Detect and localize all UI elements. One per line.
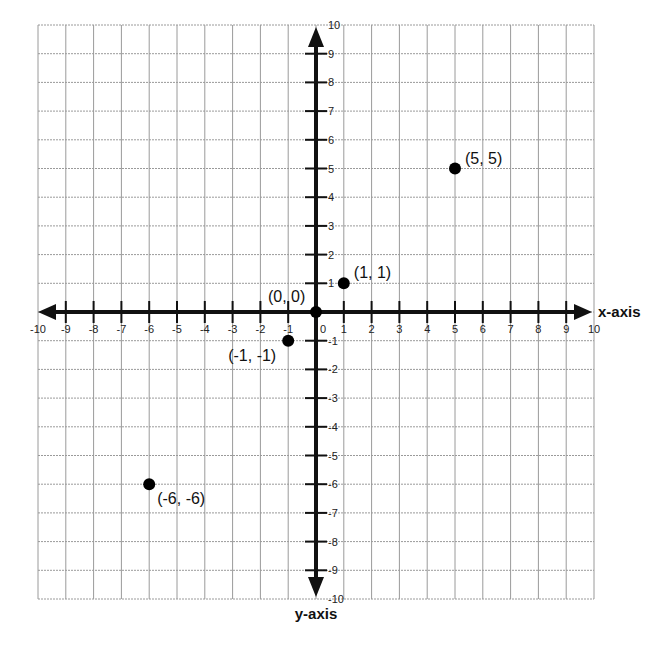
x-axis-title: x-axis	[598, 303, 641, 320]
point-label: (-6, -6)	[157, 490, 205, 507]
x-tick-label: -10	[30, 323, 46, 335]
x-tick-label: 2	[369, 323, 375, 335]
y-tick-label: -1	[328, 335, 338, 347]
y-tick-label: -3	[328, 392, 338, 404]
x-tick-label: -5	[172, 323, 182, 335]
y-tick-label: -7	[328, 507, 338, 519]
x-tick-label: 4	[424, 323, 430, 335]
x-tick-label: 3	[396, 323, 402, 335]
point-marker	[449, 163, 461, 175]
y-tick-label: 5	[328, 163, 334, 175]
x-tick-label: -4	[200, 323, 210, 335]
x-axis-left-arrow-icon	[38, 304, 56, 320]
x-tick-label: 0	[320, 323, 326, 335]
y-tick-label: -5	[328, 450, 338, 462]
y-tick-label: 8	[328, 76, 334, 88]
x-tick-label: 10	[588, 323, 600, 335]
y-axis-title: y-axis	[295, 605, 338, 622]
point-label: (-1, -1)	[228, 347, 276, 364]
coordinate-plane: -10-9-8-7-6-5-4-3-2-1012345678910-10-9-8…	[0, 0, 670, 654]
x-tick-label: 8	[535, 323, 541, 335]
x-tick-label: -7	[117, 323, 127, 335]
y-tick-label: -6	[328, 478, 338, 490]
y-tick-label: 9	[328, 48, 334, 60]
x-tick-label: 9	[563, 323, 569, 335]
data-point: (-6, -6)	[143, 478, 205, 507]
y-tick-label: 7	[328, 105, 334, 117]
y-tick-label: 3	[328, 220, 334, 232]
y-axis-up-arrow-icon	[308, 27, 324, 47]
y-axis-down-arrow-icon	[308, 577, 324, 597]
point-marker	[310, 306, 322, 318]
point-label: (5, 5)	[465, 150, 502, 167]
x-tick-label: 5	[452, 323, 458, 335]
y-tick-label: -8	[328, 536, 338, 548]
x-tick-label: 6	[480, 323, 486, 335]
y-tick-label: -4	[328, 421, 338, 433]
point-marker	[282, 335, 294, 347]
data-point: (1, 1)	[338, 264, 391, 289]
x-tick-label: -8	[89, 323, 99, 335]
point-marker	[338, 277, 350, 289]
x-tick-label: -9	[61, 323, 71, 335]
point-label: (1, 1)	[354, 264, 391, 281]
x-tick-label: -3	[228, 323, 238, 335]
point-marker	[143, 478, 155, 490]
y-tick-label: -2	[328, 363, 338, 375]
y-tick-label: 2	[328, 249, 334, 261]
y-tick-label: 10	[328, 19, 340, 31]
x-tick-label: -1	[283, 323, 293, 335]
point-label: (0, 0)	[268, 288, 305, 305]
y-tick-label: 6	[328, 134, 334, 146]
data-point: (5, 5)	[449, 150, 502, 175]
y-tick-label: 1	[328, 277, 334, 289]
x-tick-label: -2	[256, 323, 266, 335]
x-axis-right-arrow-icon	[574, 304, 592, 320]
data-point: (-1, -1)	[228, 335, 294, 364]
y-tick-label: -9	[328, 564, 338, 576]
x-tick-label: -6	[144, 323, 154, 335]
y-tick-label: -10	[328, 593, 344, 605]
x-tick-label: 1	[341, 323, 347, 335]
y-tick-label: 4	[328, 191, 334, 203]
x-tick-label: 7	[508, 323, 514, 335]
